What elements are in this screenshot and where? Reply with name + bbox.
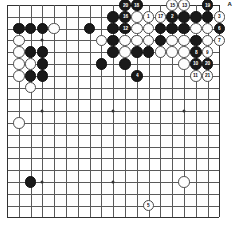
move-number: 5 bbox=[147, 203, 149, 208]
stone-white[interactable] bbox=[178, 58, 190, 70]
stone-white-move-9[interactable]: 9 bbox=[202, 46, 214, 58]
stone-black[interactable] bbox=[166, 23, 178, 35]
stone-white[interactable] bbox=[178, 35, 190, 47]
stone-white-move-1[interactable]: 1 bbox=[143, 11, 155, 23]
stone-white[interactable] bbox=[202, 23, 214, 35]
move-number: 17 bbox=[158, 14, 163, 19]
stone-white[interactable] bbox=[13, 58, 25, 70]
stone-black-move-16[interactable]: 16 bbox=[119, 11, 131, 23]
stone-black[interactable] bbox=[190, 11, 202, 23]
stone-black-move-20[interactable]: 20 bbox=[119, 0, 131, 11]
stone-black[interactable] bbox=[190, 35, 202, 47]
grid-line-vertical bbox=[7, 5, 8, 217]
stone-black-move-4[interactable]: 4 bbox=[131, 70, 143, 82]
stone-white[interactable] bbox=[178, 176, 190, 188]
stone-white[interactable] bbox=[13, 117, 25, 129]
go-board[interactable]: 201815131916117231267891020411215 A bbox=[7, 5, 226, 238]
stone-black[interactable] bbox=[119, 58, 131, 70]
stone-black[interactable] bbox=[25, 46, 37, 58]
stone-black-move-19[interactable]: 19 bbox=[202, 0, 214, 11]
stone-white[interactable] bbox=[166, 46, 178, 58]
stone-black-move-12[interactable]: 12 bbox=[119, 23, 131, 35]
stone-black[interactable] bbox=[13, 23, 25, 35]
stone-black[interactable] bbox=[107, 11, 119, 23]
stone-white[interactable] bbox=[190, 23, 202, 35]
move-number: 9 bbox=[206, 50, 208, 55]
stone-black-move-6[interactable]: 6 bbox=[214, 23, 226, 35]
stone-black[interactable] bbox=[84, 23, 96, 35]
stone-black[interactable] bbox=[37, 46, 49, 58]
stone-white-move-17[interactable]: 17 bbox=[155, 11, 167, 23]
move-number: 6 bbox=[218, 26, 220, 31]
grid-line-vertical bbox=[78, 5, 79, 217]
move-number: 19 bbox=[205, 3, 210, 8]
stone-white[interactable] bbox=[13, 46, 25, 58]
stone-white-move-13[interactable]: 13 bbox=[178, 0, 190, 11]
stone-black[interactable] bbox=[178, 11, 190, 23]
stone-black[interactable] bbox=[107, 46, 119, 58]
stone-white[interactable] bbox=[131, 23, 143, 35]
move-number: 13 bbox=[182, 3, 187, 8]
go-diagram: 201815131916117231267891020411215 A bbox=[0, 0, 233, 243]
star-point bbox=[41, 39, 44, 42]
stone-white[interactable] bbox=[13, 70, 25, 82]
move-number: 15 bbox=[170, 3, 175, 8]
stone-black[interactable] bbox=[37, 23, 49, 35]
grid-line-vertical bbox=[54, 5, 55, 217]
stone-white[interactable] bbox=[143, 35, 155, 47]
stone-black-move-18[interactable]: 18 bbox=[131, 0, 143, 11]
stone-black[interactable] bbox=[25, 70, 37, 82]
stone-white-move-7[interactable]: 7 bbox=[214, 35, 226, 47]
move-number: 12 bbox=[123, 26, 128, 31]
move-number: 7 bbox=[218, 38, 220, 43]
stone-white-move-15[interactable]: 15 bbox=[166, 0, 178, 11]
stone-black[interactable] bbox=[107, 23, 119, 35]
stone-black[interactable] bbox=[202, 11, 214, 23]
star-point bbox=[183, 110, 186, 113]
stone-black[interactable] bbox=[96, 58, 108, 70]
stone-black[interactable] bbox=[37, 70, 49, 82]
stone-black[interactable] bbox=[155, 35, 167, 47]
stone-white[interactable] bbox=[131, 35, 143, 47]
stone-black-move-8[interactable]: 8 bbox=[190, 46, 202, 58]
stone-black[interactable] bbox=[143, 46, 155, 58]
stone-white[interactable] bbox=[119, 46, 131, 58]
move-number: 16 bbox=[123, 14, 128, 19]
stone-white[interactable] bbox=[13, 35, 25, 47]
stone-white-move-3[interactable]: 3 bbox=[214, 11, 226, 23]
star-point bbox=[41, 181, 44, 184]
stone-black[interactable] bbox=[178, 23, 190, 35]
grid-line-horizontal bbox=[7, 217, 219, 218]
stone-black[interactable] bbox=[25, 176, 37, 188]
grid-line-vertical bbox=[90, 5, 91, 217]
stone-black[interactable] bbox=[25, 23, 37, 35]
move-number: 20 bbox=[205, 62, 210, 67]
stone-white[interactable] bbox=[25, 82, 37, 94]
move-number: 3 bbox=[218, 14, 220, 19]
stone-white-move-5[interactable]: 5 bbox=[143, 200, 155, 212]
stone-white[interactable] bbox=[202, 35, 214, 47]
stone-white-move-21[interactable]: 21 bbox=[202, 70, 214, 82]
stone-white[interactable] bbox=[143, 23, 155, 35]
stone-black[interactable] bbox=[131, 46, 143, 58]
star-point bbox=[112, 110, 115, 113]
stone-white[interactable] bbox=[119, 35, 131, 47]
stone-black-move-2[interactable]: 2 bbox=[166, 11, 178, 23]
stone-white-move-11[interactable]: 11 bbox=[190, 70, 202, 82]
stone-black[interactable] bbox=[37, 58, 49, 70]
move-number: 4 bbox=[136, 73, 138, 78]
stone-white[interactable] bbox=[166, 35, 178, 47]
move-number: 18 bbox=[134, 3, 139, 8]
stone-black[interactable] bbox=[155, 23, 167, 35]
move-number: 21 bbox=[205, 73, 210, 78]
stone-white[interactable] bbox=[48, 23, 60, 35]
stone-white[interactable] bbox=[96, 35, 108, 47]
stone-white[interactable] bbox=[178, 46, 190, 58]
stone-white[interactable] bbox=[131, 11, 143, 23]
move-number: 11 bbox=[194, 73, 198, 78]
stone-black-move-20[interactable]: 20 bbox=[202, 58, 214, 70]
stone-white[interactable] bbox=[155, 46, 167, 58]
stone-black[interactable] bbox=[107, 35, 119, 47]
stone-white[interactable] bbox=[25, 58, 37, 70]
stone-black-move-10[interactable]: 10 bbox=[190, 58, 202, 70]
